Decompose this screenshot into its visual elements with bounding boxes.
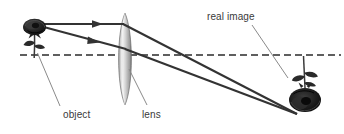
object-rose: [23, 19, 46, 58]
image-rose: [289, 56, 321, 112]
diagram-canvas: [0, 0, 344, 134]
leader-lens: [129, 69, 147, 105]
parallel-ray-incident: [40, 20, 124, 28]
label-lens: lens: [142, 109, 161, 120]
optics-ray-diagram: real image object lens: [0, 0, 344, 134]
chief-ray-incident: [40, 26, 126, 49]
leader-real-image: [252, 25, 288, 78]
label-real-image: real image: [207, 11, 255, 22]
leader-object: [38, 53, 61, 106]
chief-ray-refracted: [125, 49, 297, 114]
parallel-ray-refracted: [123, 24, 297, 114]
label-object: object: [63, 109, 90, 120]
